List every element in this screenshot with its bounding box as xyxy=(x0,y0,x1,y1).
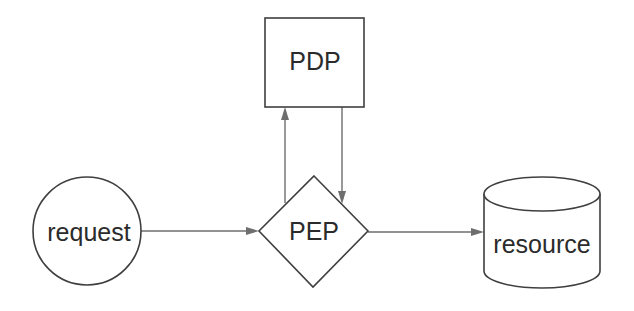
node-resource: resource xyxy=(484,177,600,288)
edge-request-to-pep xyxy=(141,227,259,235)
request-label: request xyxy=(47,218,130,246)
node-request: request xyxy=(33,177,141,285)
diagram-canvas: request PEP PDP resource xyxy=(0,0,634,311)
edge-pdp-to-pep xyxy=(338,107,346,204)
node-pep: PEP xyxy=(259,176,368,287)
pdp-label: PDP xyxy=(289,47,340,75)
resource-label: resource xyxy=(493,230,590,258)
node-pdp: PDP xyxy=(265,18,364,107)
resource-cylinder-top xyxy=(484,177,600,211)
arrowhead-icon xyxy=(246,227,259,235)
pep-label: PEP xyxy=(289,217,339,245)
arrowhead-icon xyxy=(471,228,484,236)
edge-pep-to-pdp xyxy=(281,107,289,203)
arrowhead-icon xyxy=(281,107,289,120)
edge-pep-to-resource xyxy=(368,228,484,236)
